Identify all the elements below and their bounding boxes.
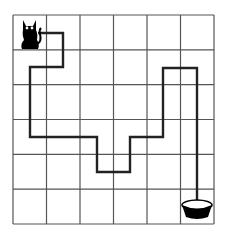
maze-board bbox=[0, 0, 227, 238]
grid-lines bbox=[13, 15, 214, 224]
bowl-icon bbox=[182, 200, 212, 219]
cat-icon bbox=[21, 20, 41, 49]
